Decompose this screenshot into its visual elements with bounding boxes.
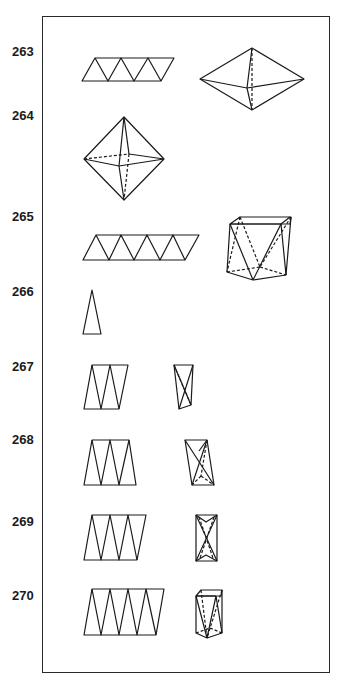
solid-269 xyxy=(196,515,217,561)
figures xyxy=(0,0,341,686)
net-265 xyxy=(83,235,199,260)
net-270 xyxy=(84,589,164,635)
solid-264 xyxy=(84,117,164,200)
solid-268 xyxy=(185,440,214,485)
net-263 xyxy=(82,58,174,81)
net-267 xyxy=(84,365,128,409)
net-268 xyxy=(84,440,136,485)
net-269 xyxy=(84,515,146,560)
solid-263 xyxy=(200,48,304,110)
net-266 xyxy=(83,290,101,334)
solid-267 xyxy=(174,365,193,409)
solid-270 xyxy=(196,590,222,638)
solid-265 xyxy=(227,217,291,280)
